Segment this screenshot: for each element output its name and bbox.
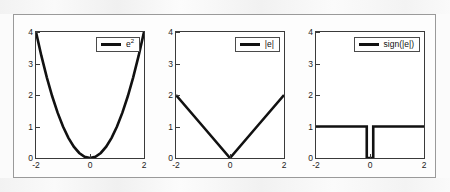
x-tick-label-3-2: 2: [422, 161, 427, 170]
x-tick-mark-1-1: [90, 154, 91, 158]
x-tick-label-1-1: 0: [88, 161, 93, 170]
legend-label-3: sign(|e|): [384, 40, 414, 49]
legend-label-superscript-1: 2: [131, 38, 134, 44]
y-tick-label-2-3: 3: [168, 59, 173, 68]
figure-outer-frame: e2 01234-202 |e| 01234-202 sign(|e|) 012…: [13, 14, 436, 178]
scan-artifact-top: [0, 0, 450, 14]
figure-canvas: e2 01234-202 |e| 01234-202 sign(|e|) 012…: [0, 0, 450, 192]
y-tick-mark-1-2: [36, 95, 40, 96]
x-tick-label-2-1: 0: [228, 161, 233, 170]
legend-label-2: |e|: [265, 40, 274, 49]
y-tick-mark-1-3: [36, 64, 40, 65]
plot-panel-3: sign(|e|) 01234-202: [298, 15, 438, 179]
legend-label-1: e2: [126, 40, 134, 49]
legend-3: sign(|e|): [354, 37, 420, 52]
y-tick-mark-2-4: [176, 32, 180, 33]
y-tick-label-2-2: 2: [168, 91, 173, 100]
y-tick-label-3-1: 1: [308, 122, 313, 131]
x-tick-label-3-1: 0: [368, 161, 373, 170]
legend-1: e2: [96, 37, 140, 52]
y-tick-mark-2-1: [176, 127, 180, 128]
plot-axes-3: sign(|e|) 01234-202: [315, 31, 425, 159]
y-tick-mark-2-0: [176, 158, 180, 159]
y-tick-mark-2-2: [176, 95, 180, 96]
y-tick-mark-3-1: [316, 127, 320, 128]
x-tick-label-1-2: 2: [142, 161, 147, 170]
plot-axes-1: e2 01234-202: [35, 31, 145, 159]
y-tick-label-2-4: 4: [168, 28, 173, 37]
y-tick-mark-3-4: [316, 32, 320, 33]
plot-panel-2: |e| 01234-202: [158, 15, 298, 179]
y-tick-label-1-3: 3: [28, 59, 33, 68]
x-tick-mark-3-1: [370, 154, 371, 158]
x-tick-label-3-0: -2: [312, 161, 320, 170]
x-tick-label-2-0: -2: [172, 161, 180, 170]
plot-panel-1: e2 01234-202: [18, 15, 158, 179]
y-tick-label-1-1: 1: [28, 122, 33, 131]
plot-axes-2: |e| 01234-202: [175, 31, 285, 159]
y-tick-label-3-3: 3: [308, 59, 313, 68]
x-tick-mark-2-1: [230, 154, 231, 158]
x-tick-label-2-2: 2: [282, 161, 287, 170]
y-tick-label-1-4: 4: [28, 28, 33, 37]
scan-artifact-bottom: [0, 178, 450, 192]
y-tick-mark-1-0: [36, 158, 40, 159]
y-tick-mark-2-3: [176, 64, 180, 65]
y-tick-mark-3-2: [316, 95, 320, 96]
y-tick-label-2-1: 1: [168, 122, 173, 131]
legend-2: |e|: [235, 37, 280, 52]
y-tick-mark-3-3: [316, 64, 320, 65]
y-tick-mark-1-4: [36, 32, 40, 33]
y-tick-label-3-2: 2: [308, 91, 313, 100]
y-tick-mark-3-0: [316, 158, 320, 159]
y-tick-label-1-2: 2: [28, 91, 33, 100]
x-tick-label-1-0: -2: [32, 161, 40, 170]
y-tick-label-3-4: 4: [308, 28, 313, 37]
legend-line-swatch-2: [240, 43, 260, 46]
legend-line-swatch-3: [359, 43, 379, 46]
y-tick-mark-1-1: [36, 127, 40, 128]
legend-line-swatch-1: [101, 43, 121, 46]
